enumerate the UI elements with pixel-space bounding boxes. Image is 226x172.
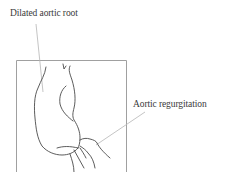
chordae-2 [70,154,74,172]
label-aortic-regurgitation: Aortic regurgitation [133,99,207,109]
label-dilated-aortic-root: Dilated aortic root [10,8,78,18]
heart-illustration [0,0,226,172]
aortic-outline-left [34,67,78,155]
leader-line-dilated-aortic-root [36,24,43,92]
inner-root-curve [60,86,73,121]
aortic-root-diagram: Dilated aortic root Aortic regurgitation [0,0,226,172]
vessel-notch [63,64,66,69]
aortic-outline-right [69,66,80,148]
ventricle-lower-curve [57,147,78,149]
leader-line-aortic-regurgitation [96,112,145,145]
